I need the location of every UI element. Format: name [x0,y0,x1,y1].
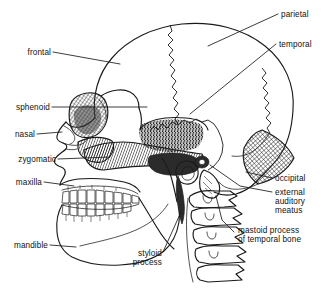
leader-maxilla [44,182,74,186]
label-mastoid-line2: of temporal bone [238,235,301,244]
infratemporal-shadow [148,153,199,175]
nasal-spine [66,149,77,150]
label-eam-line1: external [275,188,305,197]
label-mandible: mandible [14,241,48,250]
label-mastoid-line1: mastoid process [238,226,299,235]
skull-outline-group: frontal parietal temporal sphenoid nasal… [14,10,312,282]
skull-diagram-figure: frontal parietal temporal sphenoid nasal… [0,0,325,290]
label-sphenoid: sphenoid [16,103,50,112]
vertebra-c4 [195,246,246,264]
facial-profile-outline [54,122,66,185]
label-styloid-line1: styloid [138,249,162,258]
maxilla-alveolar-border [62,186,138,194]
label-styloid-line2: process [133,258,162,267]
leader-parietal [208,14,278,46]
label-occipital: occipital [275,174,306,183]
label-eam-line2: auditory [275,197,306,206]
lambdoid-suture [262,68,271,138]
skull-illustration: frontal parietal temporal sphenoid nasal… [0,0,325,290]
mandible-alveolar-border [62,204,139,209]
label-maxilla: maxilla [16,178,43,187]
sphenoid-hatching [66,88,116,144]
vertebra-c2 [191,208,242,226]
label-external-auditory-meatus: external auditory meatus [275,188,306,215]
mastoid-process [200,170,220,198]
vertebra-c5-partial [197,265,244,282]
label-parietal: parietal [281,10,309,19]
label-zygomatic: zygomatic [18,155,56,164]
label-nasal: nasal [15,130,35,139]
label-mastoid-process: mastoid process of temporal bone [238,226,301,244]
upper-teeth-row [62,190,139,203]
coronal-suture [168,25,179,124]
leader-styloid-process [163,212,181,252]
vertebra-c3 [193,227,244,245]
label-frontal: frontal [28,48,52,57]
label-styloid-process: styloid process [133,249,163,267]
label-eam-line3: meatus [275,206,302,215]
mandibular-ramus [139,198,174,249]
label-temporal: temporal [279,40,312,49]
leader-frontal [53,52,120,64]
external-auditory-meatus-canal [199,159,205,164]
vertebra-c1 [189,191,237,208]
leader-mandible [50,245,76,247]
lower-teeth-row [62,204,131,216]
